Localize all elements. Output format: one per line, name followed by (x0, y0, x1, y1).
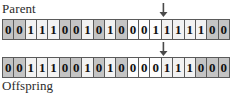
bit-value: 1 (28, 23, 35, 36)
offspring-bit-cell: 1 (48, 58, 59, 77)
bit-value: 0 (62, 61, 69, 74)
bit-value: 0 (62, 23, 69, 36)
bit-value: 0 (5, 61, 12, 74)
bit-value: 0 (118, 23, 125, 36)
offspring-bit-cell: 1 (26, 58, 37, 77)
parent-bit-cell: 0 (207, 20, 218, 39)
bit-value: 1 (84, 23, 91, 36)
bit-value: 0 (152, 61, 159, 74)
offspring-bit-cell: 1 (82, 58, 93, 77)
bit-value: 1 (107, 23, 114, 36)
parent-bit-cell: 0 (219, 20, 229, 39)
parent-bit-cell: 1 (26, 20, 37, 39)
bit-value: 0 (118, 61, 125, 74)
offspring-bit-cell: 1 (105, 58, 116, 77)
bit-value: 0 (198, 61, 205, 74)
bit-value: 0 (220, 61, 227, 74)
parent-bit-cell: 1 (48, 20, 59, 39)
bit-value: 1 (186, 23, 193, 36)
offspring-bit-cell: 0 (196, 58, 207, 77)
offspring-bit-cell: 0 (3, 58, 14, 77)
parent-bit-cell: 0 (3, 20, 14, 39)
parent-bit-cell: 1 (196, 20, 207, 39)
bit-value: 0 (141, 61, 148, 74)
bit-value: 1 (39, 61, 46, 74)
parent-label: Parent (2, 2, 36, 15)
parent-bit-cell: 0 (116, 20, 127, 39)
bit-value: 0 (5, 23, 12, 36)
offspring-label: Offspring (2, 79, 53, 92)
parent-bit-cell: 1 (105, 20, 116, 39)
parent-bit-cell: 0 (71, 20, 82, 39)
bit-value: 0 (96, 61, 103, 74)
offspring-bit-cell: 0 (128, 58, 139, 77)
bit-value: 0 (209, 61, 216, 74)
offspring-bit-cell: 1 (37, 58, 48, 77)
parent-chromosome-strip: 0 0 1 1 1 0 0 1 0 1 0 0 0 1 1 1 1 1 0 0 (2, 19, 230, 40)
parent-bit-cell: 1 (162, 20, 173, 39)
offspring-bit-cell: 0 (139, 58, 150, 77)
bit-value: 0 (16, 23, 23, 36)
bit-value: 0 (130, 61, 137, 74)
bit-value: 1 (107, 61, 114, 74)
bit-value: 1 (50, 61, 57, 74)
offspring-bit-cell: 0 (219, 58, 229, 77)
bit-value: 0 (209, 23, 216, 36)
bit-value: 1 (50, 23, 57, 36)
bit-value: 1 (198, 23, 205, 36)
offspring-bit-cell: 0 (71, 58, 82, 77)
offspring-bit-cell-mutation: 1 (173, 58, 184, 77)
mutation-point-arrow-parent (159, 3, 168, 17)
bit-value: 1 (175, 61, 182, 74)
bit-value: 0 (130, 23, 137, 36)
parent-bit-cell: 0 (14, 20, 25, 39)
bit-value: 0 (141, 23, 148, 36)
bit-value: 0 (220, 23, 227, 36)
bit-value: 0 (73, 23, 80, 36)
bit-value: 1 (164, 61, 171, 74)
offspring-bit-cell: 1 (185, 58, 196, 77)
offspring-bit-cell: 0 (150, 58, 161, 77)
parent-bit-cell: 0 (139, 20, 150, 39)
offspring-bit-cell: 1 (162, 58, 173, 77)
bit-value: 1 (39, 23, 46, 36)
bit-value: 0 (16, 61, 23, 74)
parent-bit-cell: 1 (185, 20, 196, 39)
parent-bit-cell: 0 (128, 20, 139, 39)
bit-value: 1 (28, 61, 35, 74)
parent-bit-cell: 1 (82, 20, 93, 39)
bit-value: 1 (186, 61, 193, 74)
offspring-bit-cell: 0 (14, 58, 25, 77)
parent-bit-cell: 0 (60, 20, 71, 39)
bit-value: 1 (164, 23, 171, 36)
bit-value: 1 (84, 61, 91, 74)
offspring-bit-cell: 0 (94, 58, 105, 77)
parent-bit-cell: 1 (37, 20, 48, 39)
mutation-diagram: Parent 0 0 1 1 1 0 0 1 0 1 0 0 0 1 1 1 1… (0, 0, 235, 98)
parent-bit-cell: 1 (150, 20, 161, 39)
bit-value: 0 (73, 61, 80, 74)
parent-bit-cell-mutation: 1 (173, 20, 184, 39)
offspring-bit-cell: 0 (116, 58, 127, 77)
bit-value: 0 (96, 23, 103, 36)
mutation-point-arrow-offspring (159, 42, 168, 56)
offspring-bit-cell: 0 (60, 58, 71, 77)
bit-value: 1 (152, 23, 159, 36)
offspring-bit-cell: 0 (207, 58, 218, 77)
bit-value: 1 (175, 23, 182, 36)
offspring-chromosome-strip: 0 0 1 1 1 0 0 1 0 1 0 0 0 0 1 1 1 0 0 0 (2, 57, 230, 78)
parent-bit-cell: 0 (94, 20, 105, 39)
